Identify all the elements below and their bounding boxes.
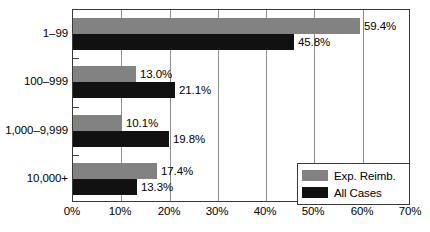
bar-all-cases	[73, 179, 137, 195]
bar-chart: 1–99100–9991,000–9,99910,000+ 59.4%45.8%…	[0, 0, 430, 232]
bar-value-label: 21.1%	[175, 84, 211, 96]
x-tick-label: 50%	[302, 205, 325, 217]
x-tick-label: 70%	[399, 205, 422, 217]
bar-value-label: 19.8%	[169, 133, 205, 145]
bar-value-label: 13.0%	[136, 68, 172, 80]
legend-label-exp-reimb: Exp. Reimb.	[334, 170, 396, 182]
bar-exp-reimb	[73, 115, 122, 131]
category-label: 10,000+	[27, 172, 68, 184]
legend-label-all-cases: All Cases	[334, 187, 382, 199]
bar-all-cases	[73, 131, 169, 147]
bar-value-label: 45.8%	[294, 36, 330, 48]
category-label: 1–99	[43, 27, 68, 39]
bar-all-cases	[73, 82, 175, 98]
x-tick-label: 10%	[109, 205, 132, 217]
legend: Exp. Reimb. All Cases	[297, 163, 410, 205]
bar-row: 13.0%	[73, 66, 411, 82]
category-axis: 1–99100–9991,000–9,99910,000+	[0, 0, 68, 232]
x-tick-label: 20%	[158, 205, 181, 217]
bar-value-label: 10.1%	[122, 117, 158, 129]
legend-swatch-icon-all-cases	[302, 187, 328, 198]
bar-value-label: 13.3%	[137, 181, 173, 193]
bar-row: 19.8%	[73, 131, 411, 147]
category-tick-mark	[73, 58, 79, 59]
x-tick-label: 40%	[254, 205, 277, 217]
plot-area: 59.4%45.8%13.0%21.1%10.1%19.8%17.4%13.3%…	[72, 9, 410, 202]
bar-value-label: 59.4%	[360, 20, 396, 32]
category-label: 100–999	[24, 75, 68, 87]
bar-exp-reimb	[73, 66, 136, 82]
x-tick-label: 30%	[206, 205, 229, 217]
bar-row: 10.1%	[73, 115, 411, 131]
bar-exp-reimb	[73, 18, 360, 34]
category-tick-mark	[73, 155, 79, 156]
legend-item-exp-reimb: Exp. Reimb.	[302, 167, 405, 184]
bar-exp-reimb	[73, 163, 157, 179]
x-tick-label: 0%	[64, 205, 80, 217]
category-label: 1,000–9,999	[5, 124, 68, 136]
bar-all-cases	[73, 34, 294, 50]
value-axis: 0%10%20%30%40%50%60%70%	[0, 205, 430, 225]
bar-row: 45.8%	[73, 34, 411, 50]
bar-row: 59.4%	[73, 18, 411, 34]
x-tick-label: 60%	[351, 205, 374, 217]
legend-item-all-cases: All Cases	[302, 184, 405, 201]
bar-row: 21.1%	[73, 82, 411, 98]
legend-swatch-icon-exp-reimb	[302, 170, 328, 181]
bar-value-label: 17.4%	[157, 165, 193, 177]
category-tick-mark	[73, 107, 79, 108]
